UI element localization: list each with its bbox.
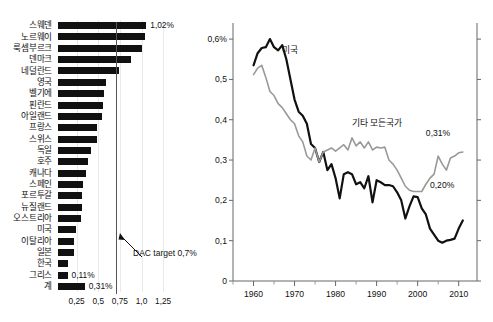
line-y-tick-label: 0,1 [215, 236, 227, 246]
bar-row: 포르투갈 [0, 190, 205, 201]
line-y-tick-label: 0,6% [207, 34, 227, 44]
bar-fill [58, 249, 74, 256]
bar-fill [58, 90, 104, 97]
bar-category-label: 일본 [0, 248, 55, 257]
bar-row: 스페인 [0, 179, 205, 190]
bar-row: 프랑스 [0, 122, 205, 133]
bar-fill [58, 204, 82, 211]
bar-category-label: 포르투갈 [0, 191, 55, 200]
bar-fill [58, 260, 68, 267]
line-y-tick-label: 0,2 [215, 195, 227, 205]
bar-category-label: 덴마크 [0, 55, 55, 64]
bar-category-label: 호주 [0, 157, 55, 166]
bar-row-total: 계0,31% [0, 281, 205, 292]
bar-row: 핀란드 [0, 99, 205, 110]
bar-fill [58, 226, 76, 233]
line-series-us [254, 39, 463, 243]
bar-track: 0,11% [55, 270, 205, 281]
dac-target-reference-line [116, 22, 117, 294]
bar-row: 룩셈부르크 [0, 43, 205, 54]
bar-x-tick-label: 1,0 [136, 296, 148, 306]
bar-row: 아일랜드 [0, 111, 205, 122]
bar-value-label: 0,11% [72, 271, 95, 280]
line-x-tick-label: 1980 [326, 289, 345, 299]
bar-fill [58, 283, 85, 289]
bar-row: 스위스 [0, 133, 205, 144]
bar-category-label: 오스트리아 [0, 214, 55, 223]
bar-category-label: 아일랜드 [0, 112, 55, 121]
bar-row: 영국 [0, 77, 205, 88]
bar-row: 그리스0,11% [0, 270, 205, 281]
bar-track: 1,02% [55, 20, 205, 31]
bar-fill [58, 238, 74, 245]
bar-category-label: 프랑스 [0, 123, 55, 132]
bar-track [55, 213, 205, 224]
line-y-tick-label: 0,4 [215, 115, 227, 125]
bar-category-label: 뉴질랜드 [0, 203, 55, 212]
dac-target-annotation: DAC target 0,7% [133, 248, 197, 258]
bar-track [55, 133, 205, 144]
bar-row: 벨기에 [0, 88, 205, 99]
bar-category-label: 영국 [0, 78, 55, 87]
bar-row: 독일 [0, 145, 205, 156]
bar-track [55, 99, 205, 110]
bar-fill [58, 192, 82, 199]
bar-fill [58, 113, 102, 120]
bar-row: 노르웨이 [0, 31, 205, 42]
bar-value-label: 0,31% [89, 282, 113, 291]
bar-category-label: 룩셈부르크 [0, 44, 55, 53]
bar-fill [58, 79, 106, 86]
bar-track [55, 122, 205, 133]
bar-track [55, 190, 205, 201]
bar-x-tick-label: 1,25 [155, 296, 171, 306]
bar-fill [58, 124, 97, 131]
bar-fill [58, 67, 119, 74]
bar-row: 스웨덴1,02% [0, 20, 205, 31]
bar-fill [58, 272, 68, 279]
line-y-tick-label: 0 [222, 276, 227, 286]
bar-row: 덴마크 [0, 54, 205, 65]
bar-category-label: 미국 [0, 225, 55, 234]
bar-track [55, 31, 205, 42]
line-x-tick-label: 1960 [244, 289, 263, 299]
bar-row: 한국 [0, 258, 205, 269]
bar-track [55, 258, 205, 269]
line-endpoint-label: 0,20% [430, 180, 454, 190]
bar-fill [58, 147, 91, 154]
bar-category-label: 한국 [0, 259, 55, 268]
bar-row: 미국 [0, 224, 205, 235]
bar-x-tick-label: 0,75 [112, 296, 128, 306]
bar-category-label: 네덜란드 [0, 67, 55, 76]
bar-track [55, 179, 205, 190]
chart-figure: 스웨덴1,02%노르웨이룩셈부르크덴마크네덜란드영국벨기에핀란드아일랜드프랑스스… [0, 0, 493, 322]
line-x-tick-label: 2000 [408, 289, 427, 299]
bar-track [55, 88, 205, 99]
bar-track [55, 202, 205, 213]
bar-category-label: 스위스 [0, 135, 55, 144]
bar-category-label: 계 [0, 282, 55, 291]
bar-row: 이탈리아 [0, 236, 205, 247]
line-series-label: 기타 모든국가 [352, 116, 402, 129]
bar-category-label: 캐나다 [0, 169, 55, 178]
line-chart-panel: 00,10,20,30,40,50,6% 1960197019801990200… [205, 0, 493, 322]
bar-fill [58, 181, 83, 188]
bar-category-label: 스웨덴 [0, 21, 55, 30]
bar-track [55, 43, 205, 54]
bar-category-label: 이탈리아 [0, 237, 55, 246]
bar-fill [58, 136, 97, 143]
bar-fill [58, 215, 81, 222]
line-series-label: 미국 [282, 43, 298, 56]
bar-track [55, 111, 205, 122]
line-y-tick-label: 0,3 [215, 155, 227, 165]
bar-track: 0,31% [55, 281, 205, 292]
bar-row: 오스트리아 [0, 213, 205, 224]
line-x-tick-label: 1970 [285, 289, 304, 299]
bar-track [55, 145, 205, 156]
bar-fill [58, 45, 142, 52]
bar-fill [58, 33, 145, 40]
bar-row: 네덜란드 [0, 65, 205, 76]
line-endpoint-label: 0,31% [426, 128, 450, 138]
bar-chart-panel: 스웨덴1,02%노르웨이룩셈부르크덴마크네덜란드영국벨기에핀란드아일랜드프랑스스… [0, 0, 205, 322]
bar-fill [58, 102, 103, 109]
bar-row: 호주 [0, 156, 205, 167]
